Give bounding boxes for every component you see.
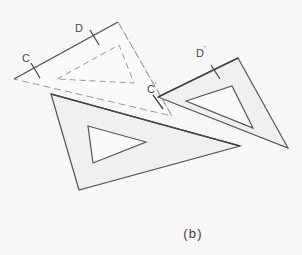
technical-drawing-svg: C D C ' D ' [0, 0, 302, 255]
label-d: D [75, 22, 83, 34]
figure-caption: (b) [148, 226, 238, 241]
label-d-prime: D [196, 47, 204, 59]
label-c-prime-mark: ' [155, 80, 157, 89]
label-c-prime: C [147, 83, 155, 95]
label-d-prime-mark: ' [204, 44, 206, 53]
label-c: C [22, 52, 30, 64]
figure-panel: C D C ' D ' (b) [0, 0, 302, 255]
